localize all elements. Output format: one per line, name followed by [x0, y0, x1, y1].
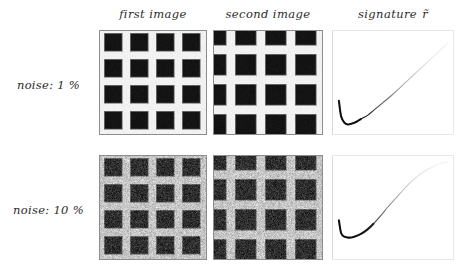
signature-symbol: r̃	[421, 7, 428, 21]
panel-signature-noise-10	[332, 155, 454, 260]
row-label-noise-10: noise: 10 %	[0, 203, 97, 217]
panel-signature-noise-1	[332, 30, 454, 135]
column-header-second-image: second image	[213, 7, 323, 21]
column-header-signature: signature r̃	[330, 7, 456, 21]
panel-first-image-noise-10	[99, 155, 207, 260]
first-image-canvas-noise-10	[100, 156, 206, 259]
signature-plot-noise-1	[333, 31, 453, 134]
column-header-signature-text: signature	[358, 7, 421, 21]
panel-second-image-noise-10	[213, 155, 323, 260]
figure-root: first image second image signature r̃ no…	[0, 0, 461, 280]
signature-plot-noise-10	[333, 156, 453, 259]
row-label-noise-1: noise: 1 %	[0, 78, 97, 92]
signature-curve-leading-noise-1	[339, 42, 449, 124]
second-image-canvas-noise-1	[214, 31, 322, 134]
panel-second-image-noise-1	[213, 30, 323, 135]
second-image-canvas-noise-10	[214, 156, 322, 259]
column-header-first-image: first image	[99, 7, 207, 21]
signature-curve-noise-10	[339, 162, 449, 238]
first-image-canvas-noise-1	[100, 31, 206, 134]
panel-first-image-noise-1	[99, 30, 207, 135]
signature-curve-noise-1	[339, 42, 449, 124]
